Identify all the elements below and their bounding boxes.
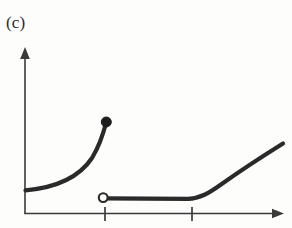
closed-endpoint-marker xyxy=(101,117,111,127)
x-axis xyxy=(24,209,284,218)
open-endpoint-marker xyxy=(99,193,108,202)
curve-left-branch xyxy=(26,122,107,190)
x-axis-arrowhead-icon xyxy=(272,209,284,218)
figure-panel-c: (c) xyxy=(0,0,292,228)
y-axis-arrowhead-icon xyxy=(20,47,30,59)
plot-canvas xyxy=(0,0,292,228)
curve-right-branch xyxy=(105,144,284,199)
